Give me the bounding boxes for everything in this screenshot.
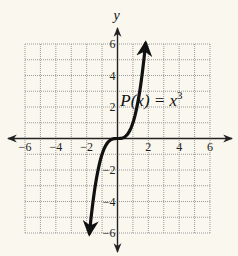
x-tick-label: −6	[19, 140, 32, 154]
y-tick-label: 2	[110, 100, 116, 114]
function-annotation: P(x) = x3	[119, 89, 183, 110]
annotation-text: P(x) = x	[119, 91, 177, 110]
y-tick-label: 6	[110, 37, 116, 51]
y-tick-label: −4	[103, 195, 116, 209]
x-tick-label: 4	[176, 140, 182, 154]
x-tick-label: −4	[49, 140, 62, 154]
y-axis-label: y	[112, 8, 121, 23]
x-tick-label: 6	[207, 140, 213, 154]
x-tick-label: 2	[145, 140, 151, 154]
x-tick-label: −2	[80, 140, 93, 154]
y-tick-label: 4	[110, 69, 116, 83]
y-tick-label: −2	[103, 163, 116, 177]
annotation-superscript: 3	[177, 89, 183, 101]
y-tick-label: −6	[103, 226, 116, 240]
chart: −6−4−2246642−2−4−6 y P(x) = x3	[0, 0, 238, 256]
